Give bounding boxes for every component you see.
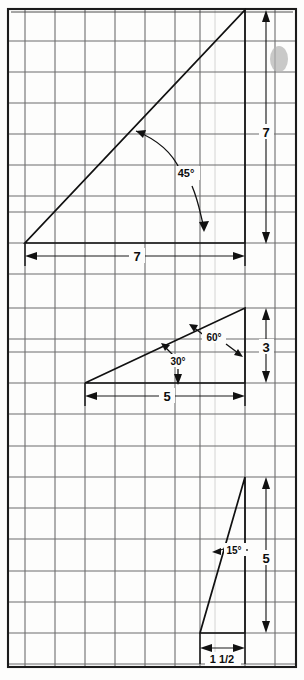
paper-background bbox=[0, 0, 304, 680]
rise-label-7: 7 bbox=[262, 125, 269, 140]
figure-page: 45° 7 7 60° bbox=[0, 0, 304, 680]
rise-label-5: 5 bbox=[262, 551, 269, 566]
angle-label-15: 15° bbox=[226, 545, 241, 556]
angle-label-30: 30° bbox=[170, 356, 185, 367]
angle-label-45: 45° bbox=[178, 167, 195, 179]
run-label-1-1-2: 1 1/2 bbox=[210, 653, 234, 665]
run-label-5: 5 bbox=[163, 389, 170, 404]
scan-smudge-artifact bbox=[270, 46, 288, 72]
rise-label-3: 3 bbox=[262, 340, 269, 355]
angle-label-60: 60° bbox=[206, 332, 221, 343]
technical-drawing-figure: 45° 7 7 60° bbox=[0, 0, 304, 680]
run-label-7: 7 bbox=[133, 249, 140, 264]
